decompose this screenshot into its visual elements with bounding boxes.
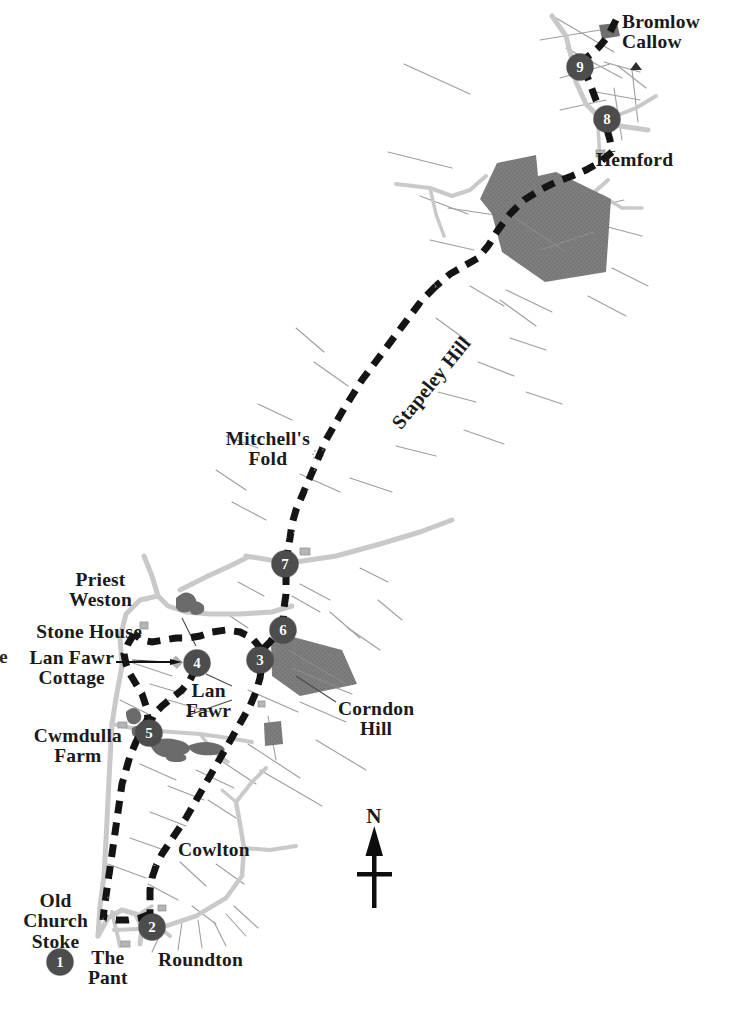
route-highlight bbox=[103, 286, 436, 920]
label-bromlow-callow: Bromlow Callow bbox=[622, 12, 700, 53]
label-hemford: Hemford bbox=[596, 150, 673, 170]
waypoint-marker-7[interactable]: 7 bbox=[272, 551, 299, 578]
north-arrow bbox=[357, 826, 392, 908]
label-stone-house: Stone House bbox=[36, 622, 142, 642]
route-segment-3-4-upper bbox=[134, 630, 262, 650]
label-corndon-hill: Corndon Hill bbox=[338, 699, 414, 740]
waypoint-marker-9[interactable]: 9 bbox=[567, 54, 594, 81]
map-canvas: Bromlow Callow Hemford Mitchell's Fold P… bbox=[0, 0, 739, 1014]
walk-route-layer bbox=[103, 20, 616, 920]
label-old-church-stoke: Old Church Stoke bbox=[23, 891, 88, 952]
waypoint-marker-6[interactable]: 6 bbox=[270, 617, 297, 644]
woodland-small-a bbox=[264, 721, 283, 746]
label-cwmdulla-farm: Cwmdulla Farm bbox=[34, 726, 122, 767]
north-arrow-label: N bbox=[366, 806, 381, 828]
label-the-pant: The Pant bbox=[88, 948, 128, 989]
waypoint-marker-1[interactable]: 1 bbox=[47, 949, 74, 976]
woodland-hemford bbox=[480, 155, 611, 282]
label-mitchells-fold: Mitchell's Fold bbox=[226, 429, 310, 470]
waypoint-marker-4[interactable]: 4 bbox=[184, 650, 211, 677]
waypoint-marker-8[interactable]: 8 bbox=[594, 106, 621, 133]
edge-cut-letter: e bbox=[0, 646, 8, 668]
label-lan-fawr-cottage: Lan Fawr Cottage bbox=[30, 648, 114, 689]
label-lan-fawr: Lan Fawr bbox=[186, 681, 231, 722]
waypoint-marker-3[interactable]: 3 bbox=[247, 647, 274, 674]
waypoint-marker-5[interactable]: 5 bbox=[136, 720, 163, 747]
route-segment-4-lower-b bbox=[124, 634, 148, 718]
label-cowlton: Cowlton bbox=[178, 840, 250, 860]
label-priest-weston: Priest Weston bbox=[69, 570, 132, 611]
label-roundton: Roundton bbox=[158, 950, 243, 970]
waypoint-marker-2[interactable]: 2 bbox=[139, 914, 166, 941]
